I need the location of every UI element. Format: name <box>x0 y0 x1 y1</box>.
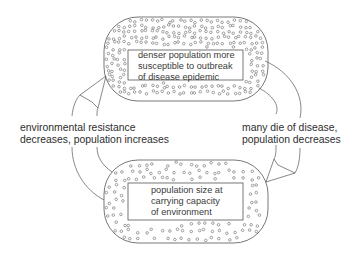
bottom-node-text: population size at carrying capacity of … <box>151 185 223 218</box>
right-edge-label: many die of disease, population decrease… <box>242 122 341 146</box>
right-edge-line-2: population decreases <box>242 134 341 146</box>
top-node-line-3: of disease epidemic <box>138 72 235 83</box>
left-edge-label: environmental resistance decreases, popu… <box>20 122 169 146</box>
left-edge-line-1: environmental resistance <box>20 122 169 134</box>
bottom-node-line-3: of environment <box>151 207 223 218</box>
top-node-line-2: susceptible to outbreak <box>138 61 235 72</box>
top-node-text: denser population more susceptible to ou… <box>138 50 235 83</box>
bottom-node-line-1: population size at <box>151 185 223 196</box>
top-node-line-1: denser population more <box>138 50 235 61</box>
left-edge-line-2: decreases, population increases <box>20 134 169 146</box>
right-edge-line-1: many die of disease, <box>242 122 341 134</box>
bottom-node-line-2: carrying capacity <box>151 196 223 207</box>
